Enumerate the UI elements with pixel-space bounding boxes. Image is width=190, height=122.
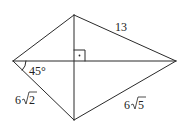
svg-text:5: 5 (138, 98, 144, 112)
svg-text:6: 6 (15, 93, 21, 107)
label-side-13: 13 (115, 20, 127, 34)
label-side-6root2: 6 2 (15, 92, 37, 107)
angle-arc-45 (22, 61, 26, 70)
right-angle-dot (79, 55, 81, 57)
label-angle-45: 45° (29, 64, 46, 78)
side-left-top (13, 15, 74, 61)
svg-text:6: 6 (124, 98, 130, 112)
label-side-6root5: 6 5 (124, 97, 146, 112)
svg-text:2: 2 (29, 93, 35, 107)
kite-diagram: 13 45° 6 2 6 5 (0, 0, 190, 122)
